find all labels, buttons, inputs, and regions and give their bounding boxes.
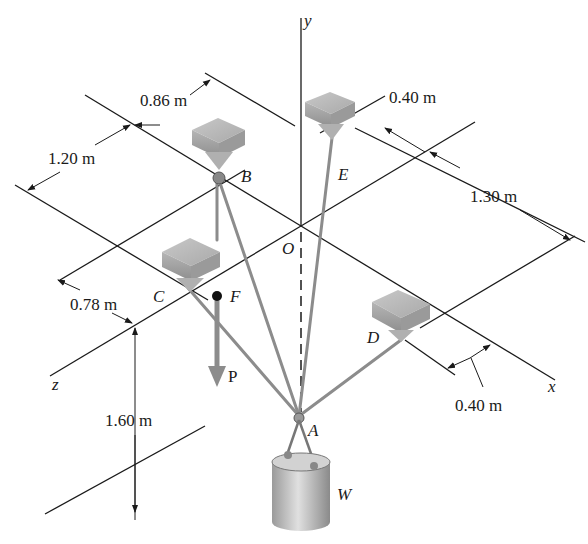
dimension-label: 1.60 m	[105, 411, 152, 430]
dim-arrow	[58, 280, 80, 290]
dim-arrow	[190, 80, 210, 95]
grid-line-floor	[45, 426, 205, 514]
axis-label-x: x	[547, 377, 556, 396]
x-axis	[301, 226, 555, 380]
point-f-dot	[212, 291, 222, 301]
point-label-f: F	[229, 287, 241, 306]
dimension-label: 1.30 m	[470, 187, 517, 206]
cable-ad	[299, 340, 401, 416]
statics-diagram: y x z O A B C D E F P W 0.86 m 1.20 m 0.…	[0, 0, 588, 544]
point-label-c: C	[153, 287, 165, 306]
dimension-label: 0.40 m	[389, 88, 436, 107]
dim-arrow	[520, 210, 570, 240]
grid-line-through-d	[420, 236, 575, 328]
force-p-arrowhead	[208, 366, 226, 387]
point-label-e: E	[337, 165, 349, 184]
dim-arrow	[95, 125, 130, 145]
weight-label-w: W	[337, 485, 353, 504]
point-label-b: B	[241, 167, 252, 186]
point-label-d: D	[366, 328, 380, 347]
dim-arrow	[385, 128, 425, 152]
dimension-label: 0.86 m	[140, 91, 187, 110]
dim-arrow	[448, 358, 470, 368]
neg-x-axis	[85, 95, 301, 226]
grid-line-top	[205, 73, 295, 126]
cable-ae	[299, 138, 332, 416]
dim-arrow	[112, 313, 132, 323]
axis-label-y: y	[302, 11, 312, 30]
dim-leader	[471, 358, 483, 387]
dimension-label: 0.40 m	[455, 396, 502, 415]
dim-arrow	[470, 345, 490, 358]
axis-label-z: z	[51, 375, 59, 394]
dim-arrow	[430, 152, 460, 168]
point-label-o: O	[282, 239, 294, 258]
anchor-block-d	[372, 290, 430, 342]
force-label-p: P	[228, 367, 237, 386]
dimension-label: 0.78 m	[70, 295, 117, 314]
dimension-label: 1.20 m	[48, 149, 95, 168]
bucket-w	[272, 420, 330, 531]
dim-arrow	[28, 172, 60, 190]
grid-line-de	[355, 128, 585, 242]
grid-line-bc	[15, 185, 208, 300]
cable-ac	[188, 288, 299, 416]
grid-line-d-lower	[405, 340, 455, 375]
anchor-block-c	[162, 238, 220, 292]
point-label-a: A	[307, 421, 319, 440]
anchor-block-e	[305, 92, 355, 140]
